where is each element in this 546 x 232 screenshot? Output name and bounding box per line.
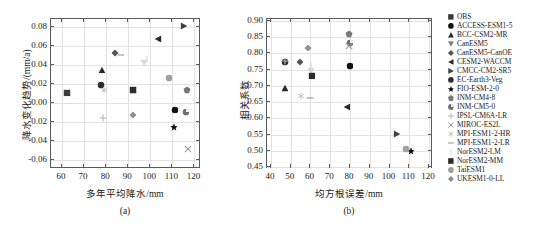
x-axis-tick-top (270, 18, 271, 22)
y-axis-tick (50, 26, 54, 27)
x-axis-tick (171, 164, 172, 168)
triangle-right-marker-icon (447, 68, 454, 75)
circle-marker-icon (447, 22, 454, 29)
x-axis-tick (408, 164, 409, 168)
y-axis-tick-right (196, 83, 200, 84)
x-axis-tick (105, 164, 106, 168)
y-axis-tick (50, 140, 54, 141)
y-axis-tick-right (196, 121, 200, 122)
legend-item-ukesm1-0-ll[interactable]: UKESM1-0-LL (444, 175, 546, 184)
y-axis-tick (266, 134, 270, 135)
y-axis-tick-label: 0.50 (232, 146, 263, 155)
gridline-vertical (271, 19, 272, 167)
triangle-down-marker-icon (444, 39, 457, 48)
data-point-cmcc-cm2-sr5 (180, 23, 188, 31)
gridline-vertical (330, 19, 331, 167)
data-point-ipsl-cm6a-lr (100, 114, 108, 122)
legend-item-canesm5-canoe[interactable]: CanESM5-CanOE (444, 48, 546, 57)
legend-item-access-esm1-5[interactable]: ACCESS-ESM1-5 (444, 21, 546, 30)
data-point-mpi-esm1-2-hr (100, 86, 108, 94)
y-axis-tick-label: 0.85 (232, 31, 263, 40)
data-point-bcc-csm2-mr (281, 84, 289, 92)
legend-item-label: EC-Earth3-Veg (457, 76, 503, 84)
star-marker-icon (447, 86, 454, 93)
legend-item-label: NorESM2-MM (457, 157, 503, 165)
data-point-miroc-es2l (184, 145, 192, 153)
gridline-horizontal (51, 103, 199, 104)
legend-item-label: TaiESM1 (457, 166, 485, 174)
x-axis-tick-top (408, 18, 409, 22)
y-axis-tick-right (196, 102, 200, 103)
gridline-vertical (84, 19, 85, 167)
x-axis-tick-top (149, 18, 150, 22)
panel-a-x-axis-title: 多年平均降水/mm (86, 186, 163, 200)
gridline-vertical (390, 19, 391, 167)
circle-marker-icon (447, 77, 454, 84)
data-point-inm-cm4-8 (184, 86, 192, 94)
x-axis-tick-label: 90 (364, 172, 373, 181)
data-point-noresm2-mm (129, 87, 137, 95)
data-point-access-esm1-5 (346, 62, 354, 70)
legend-item-label: CMCC-CM2-SR5 (457, 67, 511, 75)
y-axis-tick-right (196, 64, 200, 65)
gridline-horizontal (51, 46, 199, 47)
legend-item-canesm5[interactable]: CanESM5 (444, 39, 546, 48)
horizontal-line-marker-icon (444, 139, 457, 148)
y-axis-tick (266, 117, 270, 118)
x-axis-tick-top (329, 18, 330, 22)
x-axis-tick (149, 164, 150, 168)
gridline-horizontal (267, 135, 431, 136)
legend-item-bcc-csm2-mr[interactable]: BCC-CSM2-MR (444, 30, 546, 39)
diamond-marker-icon (447, 49, 454, 56)
legend-item-cesm2-waccm[interactable]: CESM2-WACCM (444, 57, 546, 66)
y-axis-tick (266, 150, 270, 151)
y-axis-tick (50, 102, 54, 103)
square-marker-icon (447, 13, 454, 20)
legend-item-label: INM-CM4-8 (457, 94, 495, 102)
legend-item-label: FIO-ESM-2-0 (457, 85, 499, 93)
panel-b-x-axis-title: 均方根误差/mm (315, 186, 382, 200)
y-axis-tick (50, 83, 54, 84)
gridline-horizontal (51, 160, 199, 161)
x-axis-tick-top (171, 18, 172, 22)
circle-marker-icon (444, 166, 457, 175)
y-axis-tick (266, 101, 270, 102)
x-axis-tick-label: 50 (285, 172, 294, 181)
data-point-cesm2-waccm (343, 103, 351, 111)
x-axis-tick (309, 164, 310, 168)
y-axis-tick-label: 0.08 (16, 21, 47, 30)
data-point-access-esm1-5 (171, 106, 179, 114)
gridline-vertical (429, 19, 430, 167)
legend-item-cmcc-cm2-sr5[interactable]: CMCC-CM2-SR5 (444, 66, 546, 75)
gridline-horizontal (51, 84, 199, 85)
triangle-up-marker-icon (447, 31, 454, 38)
x-axis-tick-top (193, 18, 194, 22)
panel-a-plot-area (50, 18, 200, 168)
x-axis-tick (127, 164, 128, 168)
plus-marker-icon (444, 112, 457, 121)
x-axis-tick (329, 164, 330, 168)
data-point-taiesm1 (165, 75, 173, 83)
data-point-ipsl-cm6a-lr (281, 58, 289, 66)
data-point-noresm2-mm (308, 72, 316, 80)
x-axis-tick (83, 164, 84, 168)
y-axis-tick-label: 0.80 (232, 48, 263, 57)
y-axis-tick-right (428, 134, 432, 135)
x-axis-tick-label: 120 (187, 172, 201, 181)
data-point-miroc-es2l (345, 43, 353, 51)
x-axis-tick-label: 110 (402, 172, 415, 181)
legend-item-label: IPSL-CM6A-LR (457, 112, 507, 120)
asterisk-marker-icon (447, 131, 454, 138)
legend-item-obs[interactable]: OBS (444, 12, 546, 21)
data-point-obs (63, 89, 71, 97)
gridline-vertical (150, 19, 151, 167)
square-marker-icon (444, 12, 457, 21)
diamond-marker-icon (444, 48, 457, 57)
data-point-mpi-esm1-2-lr (306, 94, 314, 102)
triangle-up-marker-icon (444, 30, 457, 39)
circle-split-marker-icon (444, 102, 457, 111)
circle-split-marker-icon (447, 104, 454, 111)
x-axis-tick (369, 164, 370, 168)
square-marker-icon (444, 157, 457, 166)
data-point-ukesm1-0-ll (129, 111, 137, 119)
